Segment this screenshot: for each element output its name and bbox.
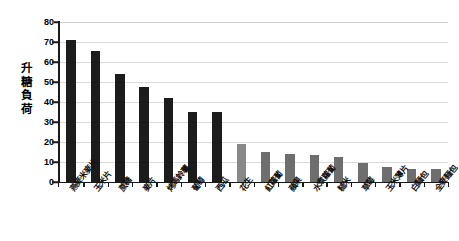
- bar: [261, 152, 271, 182]
- x-axis-tick: [375, 182, 376, 187]
- x-axis-tick: [181, 182, 182, 187]
- bar: [139, 87, 149, 182]
- x-axis-tick: [278, 182, 279, 187]
- bar: [431, 169, 441, 182]
- y-axis-title: 升糖負荷: [18, 62, 34, 116]
- bar: [188, 112, 198, 182]
- bar: [164, 98, 174, 182]
- y-axis-tick-label: 80: [36, 18, 54, 27]
- bar: [285, 154, 295, 182]
- bar: [334, 157, 344, 182]
- bar: [212, 112, 222, 182]
- y-axis-tick: [52, 81, 59, 83]
- bar: [237, 144, 247, 182]
- x-axis-tick: [399, 182, 400, 187]
- x-axis-tick: [326, 182, 327, 187]
- bar: [358, 163, 368, 182]
- y-axis-tick: [52, 101, 59, 103]
- gridline: [59, 62, 448, 63]
- y-axis-tick: [52, 161, 59, 163]
- bar: [91, 51, 101, 182]
- x-axis-line: [57, 182, 448, 184]
- x-axis-tick: [156, 182, 157, 187]
- y-axis-tick: [52, 41, 59, 43]
- x-axis-tick: [302, 182, 303, 187]
- bar: [407, 169, 417, 182]
- x-axis-tick: [351, 182, 352, 187]
- x-axis-tick: [229, 182, 230, 187]
- bar: [115, 74, 125, 182]
- bar: [310, 155, 320, 182]
- y-axis-tick: [52, 61, 59, 63]
- y-axis-tick: [52, 121, 59, 123]
- y-axis-tick: [52, 141, 59, 143]
- x-axis-tick: [108, 182, 109, 187]
- gridline: [59, 42, 448, 43]
- x-axis-tick: [58, 182, 59, 187]
- x-axis-tick: [254, 182, 255, 187]
- x-axis-tick: [83, 182, 84, 187]
- bar: [66, 40, 76, 182]
- x-axis-tick: [132, 182, 133, 187]
- x-axis-tick: [205, 182, 206, 187]
- x-axis-tick: [424, 182, 425, 187]
- gridline: [59, 22, 448, 23]
- x-axis-tick: [448, 182, 449, 187]
- bar: [382, 167, 392, 182]
- plot-area: [59, 22, 448, 182]
- y-axis-tick: [54, 21, 59, 23]
